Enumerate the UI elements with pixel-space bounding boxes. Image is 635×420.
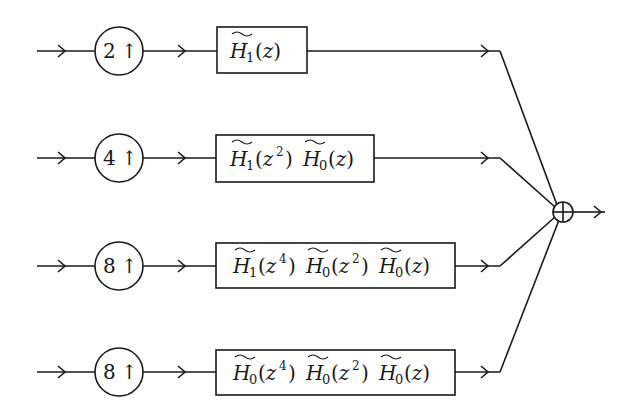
svg-text:(z: (z bbox=[255, 147, 274, 171]
svg-text:0: 0 bbox=[395, 372, 403, 387]
svg-text:(z): (z) bbox=[328, 147, 354, 171]
svg-text:): ) bbox=[361, 254, 369, 278]
svg-text:(z: (z bbox=[331, 361, 350, 385]
filter-bank-diagram: 2 ↑ H 1 (z) 4 ↑ H 1 (z bbox=[0, 0, 635, 420]
svg-text:0: 0 bbox=[319, 158, 327, 173]
svg-text:1: 1 bbox=[249, 265, 257, 280]
svg-text:8: 8 bbox=[103, 254, 116, 278]
svg-text:(z): (z) bbox=[404, 361, 430, 385]
filter-box-4: H 0 (z 4 ) H 0 (z 2 ) H 0 (z) bbox=[216, 350, 455, 395]
up-arrow-icon: ↑ bbox=[121, 360, 138, 384]
svg-text:4: 4 bbox=[279, 359, 287, 373]
upsampler-4: 8 ↑ bbox=[95, 348, 143, 396]
svg-text:(z): (z) bbox=[255, 39, 281, 63]
svg-text:0: 0 bbox=[395, 265, 403, 280]
upsampler-factor: 2 bbox=[103, 39, 116, 63]
upsampler-3: 8 ↑ bbox=[95, 242, 143, 290]
svg-text:(z: (z bbox=[258, 254, 277, 278]
svg-text:8: 8 bbox=[103, 360, 116, 384]
svg-text:1: 1 bbox=[246, 50, 254, 65]
svg-text:2: 2 bbox=[352, 252, 360, 266]
up-arrow-icon: ↑ bbox=[121, 254, 138, 278]
svg-text:0: 0 bbox=[249, 372, 257, 387]
svg-text:): ) bbox=[361, 361, 369, 385]
up-arrow-icon: ↑ bbox=[121, 39, 138, 63]
svg-text:(z): (z) bbox=[404, 254, 430, 278]
upsampler-2: 4 ↑ bbox=[95, 134, 143, 182]
summing-junction bbox=[553, 202, 573, 222]
svg-text:2: 2 bbox=[352, 359, 360, 373]
branch-2: 4 ↑ H 1 (z 2 ) H 0 (z) bbox=[37, 134, 555, 207]
svg-text:): ) bbox=[288, 254, 296, 278]
svg-text:(z: (z bbox=[331, 254, 350, 278]
svg-text:1: 1 bbox=[246, 158, 254, 173]
filter-box-3: H 1 (z 4 ) H 0 (z 2 ) H 0 (z) bbox=[216, 243, 455, 288]
svg-text:4: 4 bbox=[103, 146, 116, 170]
svg-text:): ) bbox=[285, 147, 293, 171]
svg-text:0: 0 bbox=[322, 372, 330, 387]
svg-text:): ) bbox=[288, 361, 296, 385]
svg-text:(z: (z bbox=[258, 361, 277, 385]
filter-box-2: H 1 (z 2 ) H 0 (z) bbox=[216, 135, 374, 182]
svg-text:4: 4 bbox=[279, 252, 287, 266]
up-arrow-icon: ↑ bbox=[121, 146, 138, 170]
filter-box-1: H 1 (z) bbox=[217, 27, 307, 73]
svg-text:2: 2 bbox=[276, 145, 284, 159]
branch-3: 8 ↑ H 1 (z 4 ) H 0 (z 2 ) H 0 (z) bbox=[37, 217, 555, 290]
svg-text:0: 0 bbox=[322, 265, 330, 280]
upsampler-1: 2 ↑ bbox=[95, 27, 143, 75]
